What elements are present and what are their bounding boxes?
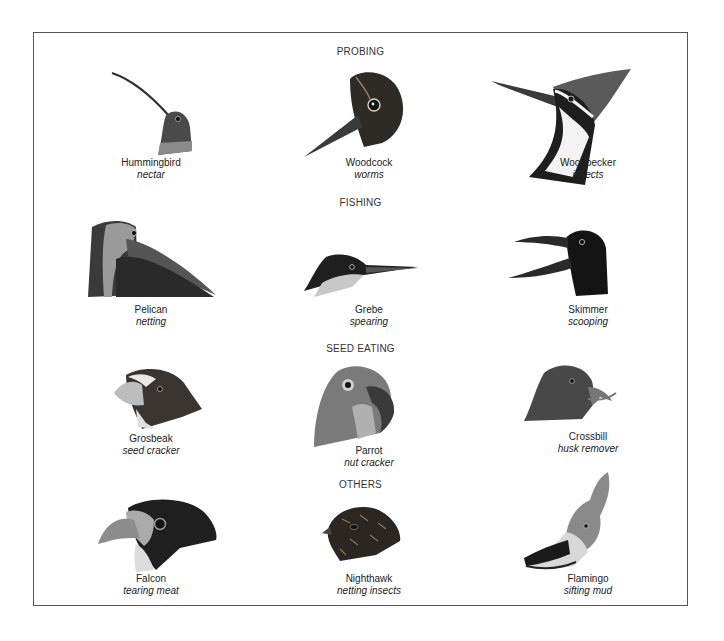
bird-diet: husk remover [508, 443, 668, 455]
section-title-seed-eating: SEED EATING [34, 343, 687, 354]
bird-name: Grebe [289, 304, 449, 316]
bird-name: Woodcock [289, 157, 449, 169]
bird-label-falcon: Falcon tearing meat [71, 573, 231, 597]
grosbeak-head-icon [112, 367, 204, 431]
bird-diet: sifting mud [508, 585, 668, 597]
bird-name: Falcon [71, 573, 231, 585]
bird-label-nighthawk: Nighthawk netting insects [289, 573, 449, 597]
bird-label-woodcock: Woodcock worms [289, 157, 449, 181]
bird-diet: nut cracker [289, 457, 449, 469]
bird-name: Hummingbird [71, 157, 231, 169]
woodcock-head-icon [300, 69, 415, 161]
bird-diet: netting insects [289, 585, 449, 597]
bird-diet: netting [71, 316, 231, 328]
bird-label-grebe: Grebe spearing [289, 304, 449, 328]
skimmer-head-icon [506, 228, 612, 296]
bird-name: Crossbill [508, 431, 668, 443]
crossbill-head-icon [522, 363, 618, 427]
pelican-head-icon [86, 219, 226, 303]
bird-diet: seed cracker [71, 445, 231, 457]
bird-name: Grosbeak [71, 433, 231, 445]
bird-name: Pelican [71, 304, 231, 316]
bird-label-flamingo: Flamingo sifting mud [508, 573, 668, 597]
bird-label-hummingbird: Hummingbird nectar [71, 157, 231, 181]
falcon-head-icon [96, 498, 218, 572]
bird-diet: tearing meat [71, 585, 231, 597]
bird-label-crossbill: Crossbill husk remover [508, 431, 668, 455]
bird-label-grosbeak: Grosbeak seed cracker [71, 433, 231, 457]
section-title-fishing: FISHING [34, 197, 687, 208]
grebe-head-icon [302, 253, 420, 297]
hummingbird-head-icon [106, 71, 196, 157]
bird-beak-chart-frame: PROBING Hummingbird nectar Woodcock worm… [33, 32, 688, 606]
bird-diet: insects [508, 169, 668, 181]
bird-name: Nighthawk [289, 573, 449, 585]
bird-label-woodpecker: Woodpecker insects [508, 157, 668, 181]
bird-diet: scooping [508, 316, 668, 328]
bird-label-pelican: Pelican netting [71, 304, 231, 328]
bird-label-parrot: Parrot nut cracker [289, 445, 449, 469]
bird-diet: nectar [71, 169, 231, 181]
flamingo-head-icon [520, 470, 616, 572]
bird-name: Flamingo [508, 573, 668, 585]
bird-diet: worms [289, 169, 449, 181]
bird-name: Parrot [289, 445, 449, 457]
bird-label-skimmer: Skimmer scooping [508, 304, 668, 328]
nighthawk-head-icon [320, 505, 406, 563]
bird-name: Skimmer [508, 304, 668, 316]
section-title-probing: PROBING [34, 46, 687, 57]
bird-diet: spearing [289, 316, 449, 328]
parrot-head-icon [310, 363, 400, 447]
bird-name: Woodpecker [508, 157, 668, 169]
